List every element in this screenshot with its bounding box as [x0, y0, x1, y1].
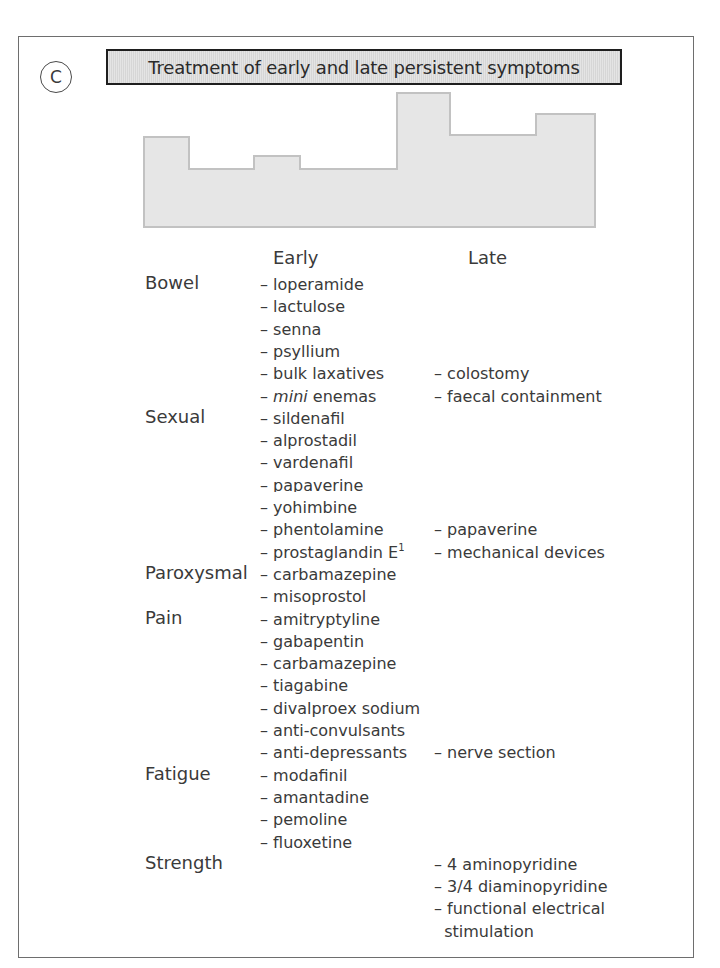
late-treatment-item: – functional electrical	[434, 899, 605, 919]
late-treatment-item: – faecal containment	[434, 387, 602, 407]
early-treatment-item: – amantadine	[260, 788, 369, 808]
early-treatment-item: – lactulose	[260, 297, 345, 317]
early-treatment-item: – fluoxetine	[260, 833, 352, 853]
early-treatment-item: – mini enemas	[260, 387, 376, 407]
early-treatment-item: – vardenafil	[260, 453, 353, 473]
early-treatment-item: – amitryptyline	[260, 610, 380, 630]
early-treatment-item: – misoprostol	[260, 587, 366, 607]
early-treatment-item: – anti-convulsants	[260, 721, 405, 741]
early-treatment-item: – anti-depressants	[260, 743, 407, 763]
late-treatment-item: – 4 aminopyridine	[434, 855, 577, 875]
early-treatment-item: – divalproex sodium	[260, 699, 420, 719]
late-treatment-item: – papaverine	[434, 520, 537, 540]
early-treatment-item: – prostaglandin E1	[260, 543, 405, 563]
early-treatment-item: – tiagabine	[260, 676, 348, 696]
category-label: Strength	[145, 852, 223, 874]
early-treatment-item: – gabapentin	[260, 632, 364, 652]
early-treatment-item: – loperamide	[260, 275, 364, 295]
late-treatment-item: – colostomy	[434, 364, 529, 384]
early-treatment-item: – phentolamine	[260, 520, 384, 540]
category-label: Sexual	[145, 406, 205, 428]
early-treatment-item: – carbamazepine	[260, 654, 396, 674]
early-treatment-item: – pemoline	[260, 810, 347, 830]
category-label: Pain	[145, 607, 183, 629]
early-treatment-item: – senna	[260, 320, 321, 340]
early-treatment-item: – carbamazepine	[260, 565, 396, 585]
late-treatment-item: – mechanical devices	[434, 543, 605, 563]
early-treatment-item: – modafinil	[260, 766, 348, 786]
early-treatment-item: – alprostadil	[260, 431, 357, 451]
late-treatment-item: – 3/4 diaminopyridine	[434, 877, 608, 897]
early-treatment-item: – psyllium	[260, 342, 340, 362]
category-label: Paroxysmal	[145, 562, 248, 584]
silhouette-shape	[144, 93, 595, 227]
category-label: Fatigue	[145, 763, 211, 785]
late-treatment-item: stimulation	[434, 922, 534, 942]
early-treatment-item: – bulk laxatives	[260, 364, 384, 384]
late-treatment-item: – nerve section	[434, 743, 556, 763]
column-header-early: Early	[273, 247, 318, 268]
column-header-late: Late	[468, 247, 507, 268]
early-treatment-item: – papaverine	[260, 476, 363, 492]
category-label: Bowel	[145, 272, 199, 294]
early-treatment-item: – yohimbine	[260, 498, 357, 518]
early-treatment-item: – sildenafil	[260, 409, 345, 429]
